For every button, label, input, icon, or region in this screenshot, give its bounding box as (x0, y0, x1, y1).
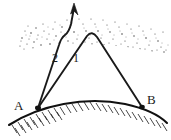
ionosphere-stipple-band (19, 18, 168, 55)
point-b-label: B (147, 93, 156, 106)
ray-1-path (38, 33, 142, 108)
ray-one-label: 1 (73, 52, 79, 64)
point-a-label: A (14, 99, 23, 112)
physics-diagram-figure: A B 1 2 (0, 0, 171, 140)
point-a-marker (35, 106, 41, 111)
escaping-ray-arrowhead-icon (71, 3, 79, 15)
diagram-canvas (0, 0, 171, 140)
point-b-marker (139, 105, 145, 110)
ray-two-label: 2 (52, 52, 58, 64)
